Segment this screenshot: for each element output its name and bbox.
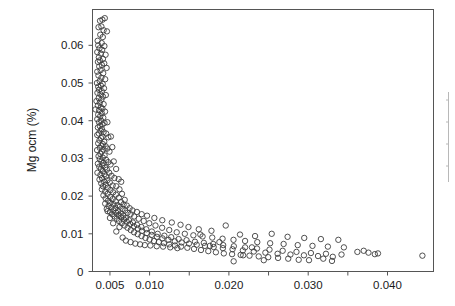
y-tick-label: 0.04 — [61, 115, 84, 127]
data-point — [110, 144, 115, 149]
y-tick-label: 0.03 — [61, 152, 83, 164]
data-point — [341, 245, 346, 250]
data-point — [255, 239, 260, 244]
data-point — [294, 249, 299, 254]
data-point — [321, 256, 326, 261]
data-point — [256, 254, 261, 259]
data-point — [217, 239, 222, 244]
data-point — [302, 235, 307, 240]
data-point — [318, 236, 323, 241]
data-point — [301, 253, 306, 258]
data-point — [160, 218, 165, 223]
data-point — [167, 227, 172, 232]
x-tick-label: 0.020 — [215, 279, 244, 291]
data-point-group — [93, 15, 425, 264]
data-point — [114, 229, 119, 234]
x-tick-label: 0.030 — [294, 279, 323, 291]
data-point — [281, 241, 286, 246]
data-point — [280, 248, 285, 253]
data-point — [152, 215, 157, 220]
x-tick-label: 0.010 — [135, 279, 164, 291]
x-axis-ticks — [110, 272, 388, 276]
data-point — [306, 257, 311, 262]
data-point — [168, 245, 173, 250]
data-point — [113, 166, 118, 171]
data-point — [295, 242, 300, 247]
data-point — [308, 250, 313, 255]
data-point — [196, 227, 201, 232]
data-point — [286, 256, 291, 261]
data-point — [336, 237, 341, 242]
data-point — [147, 221, 152, 226]
plot-frame — [93, 10, 434, 272]
data-point — [159, 225, 164, 230]
data-point — [355, 249, 360, 254]
data-point — [310, 243, 315, 248]
y-axis-ticks — [89, 45, 93, 271]
data-point — [210, 235, 215, 240]
data-point — [160, 244, 165, 249]
data-point — [206, 248, 211, 253]
y-tick-label: 0.02 — [61, 190, 83, 202]
data-point — [223, 223, 228, 228]
data-point — [136, 216, 141, 221]
data-point — [269, 231, 274, 236]
y-axis-tick-labels: 00.010.020.030.040.050.06 — [61, 39, 84, 277]
data-point — [182, 231, 187, 236]
data-point — [95, 132, 100, 137]
data-point — [148, 243, 153, 248]
data-point — [296, 257, 301, 262]
data-point — [174, 230, 179, 235]
data-point — [221, 251, 226, 256]
data-point — [254, 246, 259, 251]
data-point — [191, 246, 196, 251]
data-point — [267, 241, 272, 246]
y-tick-label: 0.01 — [61, 228, 83, 240]
data-point — [247, 253, 252, 258]
data-point — [178, 222, 183, 227]
data-point — [231, 237, 236, 242]
data-point — [285, 234, 290, 239]
scatter-plot-figure: 00.010.020.030.040.050.06 0.0050.0100.02… — [0, 0, 455, 306]
data-point — [191, 233, 196, 238]
data-point — [144, 213, 149, 218]
data-point — [315, 253, 320, 258]
x-tick-label: 0.005 — [96, 279, 125, 291]
y-tick-label: 0.06 — [61, 39, 83, 51]
data-point — [111, 159, 116, 164]
data-point — [114, 184, 119, 189]
data-point — [237, 232, 242, 237]
chart-canvas: 00.010.020.030.040.050.06 0.0050.0100.02… — [0, 0, 455, 306]
x-tick-label: 0.040 — [373, 279, 402, 291]
data-point — [110, 221, 115, 226]
data-point — [420, 253, 425, 258]
data-point — [361, 248, 366, 253]
data-point — [141, 218, 146, 223]
data-point — [325, 244, 330, 249]
y-tick-label: 0 — [77, 266, 83, 278]
y-axis-title: Mg ocm (%) — [25, 108, 39, 173]
data-point — [153, 223, 158, 228]
data-point — [231, 259, 236, 264]
data-point — [372, 251, 377, 256]
data-point — [186, 224, 191, 229]
adjacent-panel-edge — [446, 92, 449, 182]
data-point — [104, 65, 109, 70]
data-point — [120, 235, 125, 240]
data-point — [169, 220, 174, 225]
data-point — [213, 250, 218, 255]
data-point — [339, 252, 344, 257]
x-axis-tick-labels: 0.0050.0100.0200.0300.040 — [96, 279, 402, 291]
data-point — [220, 236, 225, 241]
data-point — [209, 228, 214, 233]
data-point — [242, 238, 247, 243]
data-point — [95, 69, 100, 74]
data-point — [252, 233, 257, 238]
data-point — [261, 257, 266, 262]
data-point — [104, 29, 109, 34]
data-point — [198, 247, 203, 252]
y-tick-label: 0.05 — [61, 77, 83, 89]
